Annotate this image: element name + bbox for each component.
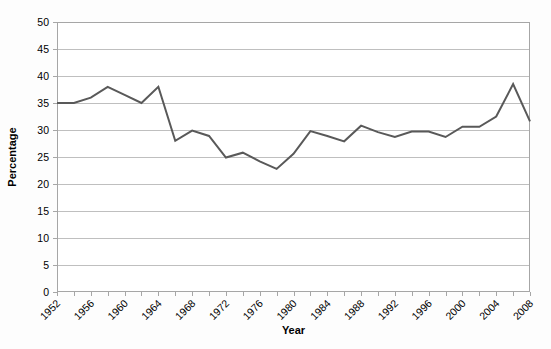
x-axis-title: Year: [282, 324, 306, 336]
y-axis-title: Percentage: [6, 127, 18, 186]
y-tick-label: 45: [37, 43, 49, 55]
chart-figure: 05101520253035404550 1952195619601964196…: [0, 0, 551, 349]
y-tick-label: 20: [37, 178, 49, 190]
y-tick-label: 10: [37, 232, 49, 244]
line-chart: 05101520253035404550 1952195619601964196…: [0, 0, 551, 349]
y-tick-label: 25: [37, 151, 49, 163]
y-tick-label: 15: [37, 205, 49, 217]
y-tick-label: 30: [37, 124, 49, 136]
y-tick-label: 5: [43, 259, 49, 271]
y-tick-label: 0: [43, 286, 49, 298]
y-tick-label: 50: [37, 16, 49, 28]
y-tick-label: 35: [37, 97, 49, 109]
y-tick-label: 40: [37, 70, 49, 82]
